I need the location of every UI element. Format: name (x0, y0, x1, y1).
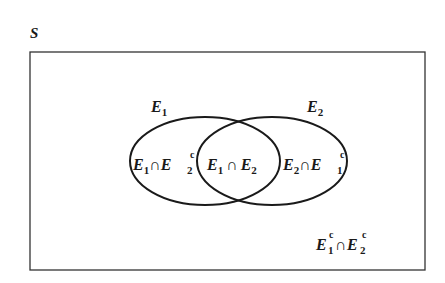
set-e1-label: E1 (150, 98, 167, 118)
region-outside-label: E 1 c ∩ E 2 c (315, 229, 367, 256)
svg-text:∩: ∩ (335, 236, 347, 253)
svg-text:c: c (190, 149, 195, 160)
svg-text:1: 1 (328, 244, 334, 256)
svg-text:c: c (340, 149, 345, 160)
svg-text:c: c (362, 229, 367, 240)
region-e2-only-label: E2∩E 1 c (282, 149, 345, 176)
svg-text:c: c (329, 229, 334, 240)
region-e1-only-label: E1∩E 2 c (132, 149, 195, 176)
svg-text:E: E (346, 236, 358, 253)
svg-text:2: 2 (187, 164, 193, 176)
svg-text:E1∩E2: E1∩E2 (206, 156, 257, 176)
svg-text:E2∩E: E2∩E (282, 156, 321, 176)
set-e2-ellipse (197, 117, 347, 205)
region-intersection-label: E1∩E2 (206, 156, 257, 176)
svg-text:E1∩E: E1∩E (132, 156, 171, 176)
svg-text:E: E (315, 236, 327, 253)
svg-text:1: 1 (337, 164, 343, 176)
universe-label: S (30, 25, 38, 41)
svg-text:2: 2 (360, 244, 366, 256)
venn-diagram: S E1 E2 E1∩E 2 c E1∩E2 E2∩E 1 c E 1 c ∩ … (0, 0, 445, 283)
set-e2-label: E2 (306, 98, 324, 118)
